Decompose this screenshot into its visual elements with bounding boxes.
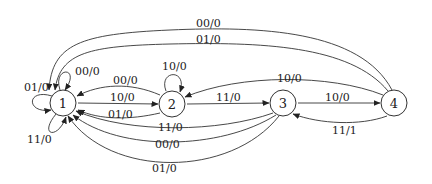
edge-label-3-4-10: 10/0 (325, 91, 350, 104)
edge-label-4-1-00: 00/0 (196, 17, 221, 30)
edge-label-2-1-01: 01/0 (108, 108, 133, 121)
state-2: 2 (159, 91, 185, 117)
state-diagram: 00/0 01/0 00/0 01/0 11/0 00/0 10/0 01/0 … (0, 0, 432, 184)
state-4-label: 4 (390, 96, 398, 111)
state-3: 3 (270, 90, 296, 116)
edge-4-to-1-01 (55, 44, 388, 91)
state-3-label: 3 (279, 96, 287, 111)
edge-label-2-1-00: 00/0 (113, 74, 138, 87)
edge-2-self-10 (165, 75, 182, 92)
edge-label-1-2-10: 10/0 (110, 91, 135, 104)
edge-label-1-1-00: 00/0 (75, 65, 100, 78)
edge-label-1-1-01: 01/0 (24, 81, 49, 94)
edge-label-4-2-10: 10/0 (277, 72, 302, 85)
edge-label-4-3-11: 11/1 (332, 124, 357, 137)
edge-1-self-00 (59, 72, 71, 90)
edge-label-3-1-11: 11/0 (158, 121, 183, 134)
edge-label-2-2-10: 10/0 (162, 60, 187, 73)
edge-label-3-1-00: 00/0 (155, 138, 180, 151)
edge-label-2-3-11: 11/0 (216, 91, 241, 104)
edge-label-3-1-01: 01/0 (152, 162, 177, 175)
edge-label-4-1-01: 01/0 (196, 33, 221, 46)
state-1-label: 1 (59, 96, 67, 111)
edge-4-to-3-11 (293, 114, 387, 123)
edge-label-1-1-11: 11/0 (27, 133, 52, 146)
state-2-label: 2 (168, 97, 176, 112)
state-4: 4 (381, 90, 407, 116)
edge-1-self-01 (32, 94, 52, 110)
edge-1-self-11 (49, 114, 66, 132)
state-1: 1 (50, 90, 76, 116)
